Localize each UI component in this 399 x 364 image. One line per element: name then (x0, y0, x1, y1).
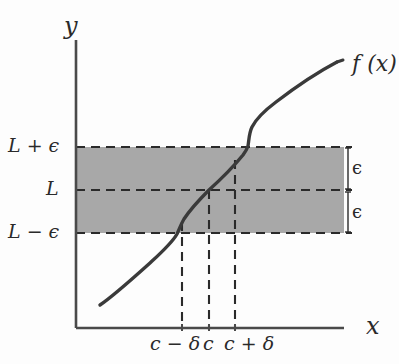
x-tick-label-c-plus-delta: c + δ (224, 334, 274, 353)
band-annotation-epsilon-lower: ϵ (352, 203, 362, 221)
y-tick-label-l: L (46, 179, 59, 198)
f-label-leader (337, 60, 343, 62)
x-tick-label-c: c (203, 334, 214, 353)
x-axis-label: x (366, 314, 380, 338)
function-label: f (x) (352, 53, 397, 75)
y-axis-label: y (64, 14, 78, 38)
limit-figure: y x f (x) L + ϵ L L − ϵ c − δ c c + δ ϵ … (0, 0, 399, 364)
x-tick-label-c-minus-delta: c − δ (150, 334, 200, 353)
y-tick-label-l-plus-epsilon: L + ϵ (8, 136, 59, 155)
band-annotation-epsilon-upper: ϵ (352, 159, 362, 177)
y-tick-label-l-minus-epsilon: L − ϵ (8, 222, 59, 241)
figure-canvas (0, 0, 399, 364)
